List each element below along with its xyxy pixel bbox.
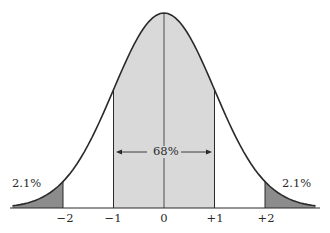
sigma-boundary-lines <box>63 13 265 208</box>
tick-label-0: 0 <box>160 213 167 225</box>
center-percent-label: 68% <box>151 146 181 158</box>
left-tail-percent-label: 2.1% <box>12 178 41 190</box>
tick-label-plus-2: +2 <box>258 213 275 225</box>
tick-label-minus-1: −1 <box>105 213 122 225</box>
normal-distribution-chart <box>0 0 330 233</box>
tick-label-plus-1: +1 <box>207 213 224 225</box>
right-tail-percent-label: 2.1% <box>282 178 311 190</box>
tick-label-minus-2: −2 <box>57 213 74 225</box>
